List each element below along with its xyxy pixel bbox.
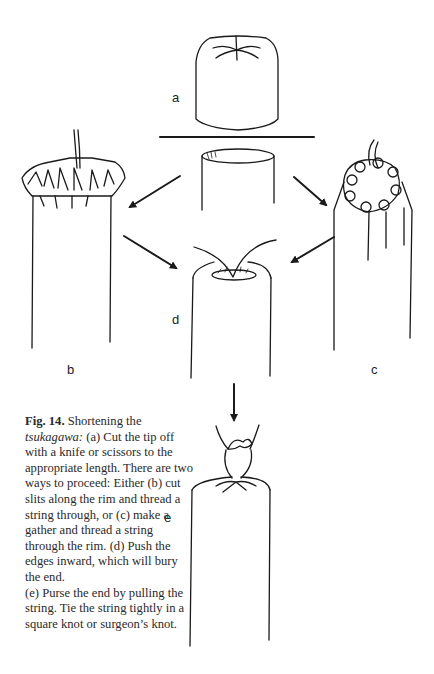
label-a: a	[172, 90, 179, 105]
cut-tip-a	[196, 36, 278, 130]
figure-caption: Fig. 14. Shortening the tsukagawa: (a) C…	[25, 414, 195, 632]
caption-body-1: (a) Cut the tip off with a knife or scis…	[25, 430, 193, 584]
pursed-tube-e	[190, 425, 270, 646]
arrow-to-c	[294, 177, 326, 205]
gather-tube-c	[334, 140, 412, 350]
pushed-tube-d	[191, 240, 276, 378]
label-c: c	[371, 362, 378, 377]
arrow-to-b	[130, 176, 180, 207]
caption-title: Shortening the	[65, 414, 142, 428]
tube-top	[202, 149, 274, 210]
slit-tube-b	[22, 130, 125, 348]
arrow-b-to-d	[124, 236, 176, 268]
arrow-c-to-d	[292, 237, 334, 262]
caption-term: tsukagawa:	[25, 430, 83, 444]
label-d: d	[172, 312, 179, 327]
figure-number: Fig. 14.	[25, 414, 65, 428]
label-b: b	[67, 362, 74, 377]
caption-body-2: (e) Purse the end by pulling the string.…	[25, 586, 195, 633]
